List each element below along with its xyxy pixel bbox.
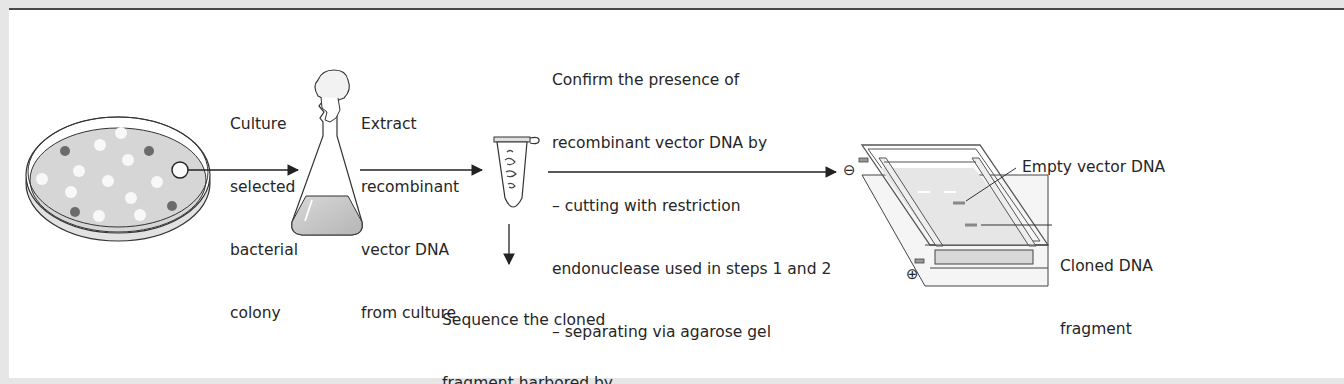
confirm-line-3: – cutting with restriction <box>552 196 831 217</box>
sequence-step-label: Sequence the cloned fragment harbored by… <box>442 268 613 384</box>
cloned-fragment-line-2: fragment <box>1060 319 1153 340</box>
culture-line-2: selected <box>230 177 298 198</box>
extract-line-2: recombinant <box>361 177 459 198</box>
erlenmeyer-flask-icon <box>292 70 363 235</box>
cloned-fragment-label: Cloned DNA fragment <box>1060 214 1153 361</box>
culture-step-label: Culture selected bacterial colony <box>230 72 298 345</box>
culture-line-1: Culture <box>230 114 298 135</box>
culture-line-4: colony <box>230 303 298 324</box>
extract-line-1: Extract <box>361 114 459 135</box>
sequence-line-2: fragment harbored by <box>442 373 613 384</box>
confirm-line-1: Confirm the presence of <box>552 70 831 91</box>
negative-electrode-icon: ⊖ <box>843 160 856 181</box>
cloned-fragment-line-1: Cloned DNA <box>1060 256 1153 277</box>
petri-dish-icon <box>26 117 210 241</box>
confirm-line-2: recombinant vector DNA by <box>552 133 831 154</box>
microcentrifuge-tube-icon <box>494 137 539 207</box>
positive-electrode-icon: ⊕ <box>906 264 919 285</box>
sequence-line-1: Sequence the cloned <box>442 310 613 331</box>
extract-line-3: vector DNA <box>361 240 459 261</box>
empty-vector-label: Empty vector DNA <box>1022 157 1165 178</box>
culture-line-3: bacterial <box>230 240 298 261</box>
